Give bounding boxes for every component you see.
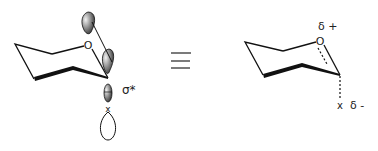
sigma-star-orbital (104, 84, 112, 102)
left-chair-structure: O (15, 39, 108, 81)
ring-bond-to-oxygen (52, 46, 84, 54)
anomeric-effect-diagram: O x σ* O δ + x δ - (0, 0, 378, 151)
ring-bond-bottom-wedge (263, 63, 340, 78)
oxygen-atom-label: O (316, 35, 325, 48)
ring-bond-to-oxygen (283, 42, 316, 51)
partial-double-bond-dashed (318, 48, 327, 64)
substituent-x-right: x (337, 100, 343, 111)
sigma-star-label: σ* (122, 83, 136, 97)
ring-bond-bottom-wedge (34, 66, 108, 81)
oxygen-atom-label: O (84, 39, 93, 52)
right-chair-structure: O δ + x δ - (245, 20, 364, 112)
equivalence-symbol (171, 53, 191, 68)
leaving-group-lone-pair-orbital (100, 112, 115, 140)
orbital-overlap-line (92, 22, 112, 62)
delta-plus-label: δ + (318, 20, 337, 33)
delta-minus-label: δ - (350, 99, 364, 112)
